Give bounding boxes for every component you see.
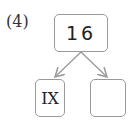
arrow-to-right-child: [81, 52, 106, 76]
root-value: 16: [66, 22, 96, 44]
left-child-value: IX: [41, 89, 59, 108]
left-child-box: IX: [35, 79, 65, 117]
root-box: 16: [54, 14, 108, 52]
arrow-to-left-child: [56, 52, 81, 76]
right-child-box-answer[interactable]: [90, 79, 126, 117]
